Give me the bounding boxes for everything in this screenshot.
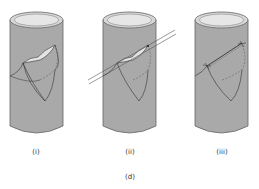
panel-label-ii: (ii) xyxy=(110,148,150,156)
panel-label-i: (i) xyxy=(16,148,56,156)
cylinder-ii xyxy=(88,12,176,133)
cylinder-iii xyxy=(195,12,248,133)
figure-label: (d) xyxy=(110,173,150,181)
panel-label-iii: (iii) xyxy=(202,148,242,156)
figure-canvas xyxy=(0,0,259,189)
cylinder-i xyxy=(10,12,63,133)
